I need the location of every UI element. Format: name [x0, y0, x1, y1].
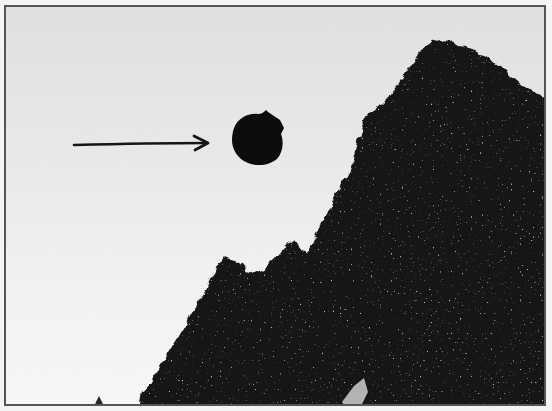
photo-scene [6, 7, 546, 406]
photograph [4, 5, 546, 406]
